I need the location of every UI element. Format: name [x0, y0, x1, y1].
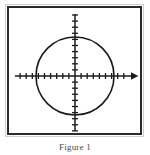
coordinate-plane-graphic	[0, 0, 150, 155]
figure-caption: Figure 1	[0, 142, 150, 153]
figure-container: Figure 1	[0, 0, 150, 155]
